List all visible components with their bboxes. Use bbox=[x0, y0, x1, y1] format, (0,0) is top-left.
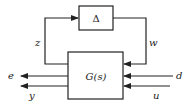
u-label: u bbox=[153, 90, 159, 101]
y-label: y bbox=[28, 90, 35, 101]
e-label: e bbox=[8, 70, 14, 81]
w-label: w bbox=[149, 37, 158, 48]
z-label: z bbox=[34, 37, 41, 48]
d-label: d bbox=[176, 70, 182, 81]
delta-block: Δ bbox=[79, 6, 113, 30]
plant-block: G(s) bbox=[68, 52, 123, 99]
plant-label: G(s) bbox=[86, 71, 107, 82]
delta-label: Δ bbox=[92, 13, 99, 24]
block-diagram: Δ G(s) z w e y d u bbox=[0, 0, 192, 106]
